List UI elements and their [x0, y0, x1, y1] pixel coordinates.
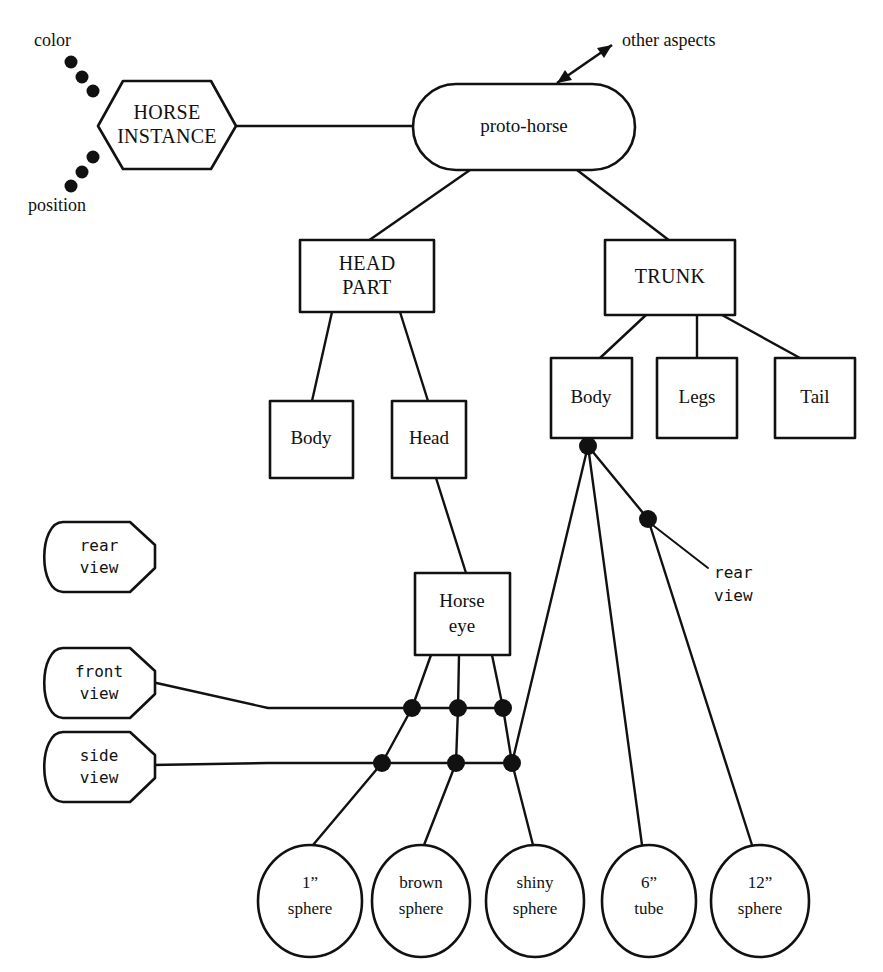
- edge-head-to-horse-eye: [436, 478, 466, 573]
- horse-eye-label-line2: eye: [449, 615, 475, 636]
- junction-dot-trunk-body: [579, 437, 597, 455]
- leaf-12in-sphere-label-line1: 12”: [748, 873, 773, 892]
- leaf-shiny-sphere-label-line2: sphere: [513, 899, 557, 918]
- edge-grid-r2c1-to-1in-sphere: [313, 763, 382, 845]
- rear-view-label-line1: rear: [80, 536, 119, 555]
- front-view-node[interactable]: front view: [44, 648, 155, 718]
- edge-head-part-to-body: [312, 312, 332, 401]
- diagram-canvas: HORSE INSTANCE proto-horse HEAD PART TRU…: [0, 0, 883, 972]
- head-head-label: Head: [409, 427, 450, 448]
- position-annotation-label: position: [28, 195, 86, 215]
- leaf-brown-sphere-label-line1: brown: [399, 873, 443, 892]
- leaf-12in-sphere-node[interactable]: 12” sphere: [711, 845, 809, 957]
- head-part-label-line1: HEAD: [339, 252, 396, 274]
- proto-horse-label: proto-horse: [480, 115, 568, 136]
- edge-grid-r1c1-to-r2c1: [382, 708, 412, 763]
- horse-instance-label-line1: HORSE: [133, 101, 200, 123]
- side-view-node[interactable]: side view: [44, 732, 155, 802]
- head-part-node[interactable]: HEAD PART: [300, 240, 434, 312]
- trunk-legs-node[interactable]: Legs: [657, 358, 737, 438]
- leaf-1in-sphere-label-line1: 1”: [302, 873, 318, 892]
- leaf-brown-sphere-node[interactable]: brown sphere: [372, 845, 470, 957]
- edge-grid-r2c2-to-brown-sphere: [424, 763, 456, 845]
- leaf-6in-tube-node[interactable]: 6” tube: [602, 845, 696, 957]
- color-aspect-dotted-link: [65, 56, 100, 98]
- junction-dot-r1c3: [494, 699, 512, 717]
- edge-prototype-to-head-part: [368, 170, 470, 241]
- horse-eye-label-line1: Horse: [439, 590, 484, 611]
- head-head-node[interactable]: Head: [392, 401, 466, 478]
- front-view-label-line1: front: [75, 662, 123, 681]
- rear-view-label-line2: view: [80, 558, 119, 577]
- rear-view-annotation-label-line2: view: [714, 586, 753, 605]
- horse-eye-node[interactable]: Horse eye: [415, 573, 510, 655]
- front-view-label-line2: view: [80, 684, 119, 703]
- rear-view-node[interactable]: rear view: [44, 522, 155, 592]
- trunk-label: TRUNK: [635, 265, 706, 287]
- trunk-tail-label: Tail: [800, 386, 829, 407]
- trunk-body-label: Body: [570, 386, 612, 407]
- leaf-brown-sphere-label-line2: sphere: [399, 899, 443, 918]
- leaf-6in-tube-label-line2: tube: [634, 899, 663, 918]
- junction-dot-r1c2: [449, 699, 467, 717]
- head-part-label-line2: PART: [342, 276, 391, 298]
- proto-horse-node[interactable]: proto-horse: [413, 84, 635, 170]
- leaf-1in-sphere-node[interactable]: 1” sphere: [258, 845, 362, 957]
- edge-trunk-to-tail: [722, 315, 800, 358]
- edge-prototype-to-trunk: [577, 170, 670, 241]
- trunk-tail-node[interactable]: Tail: [775, 358, 855, 438]
- horse-instance-node[interactable]: HORSE INSTANCE: [98, 81, 236, 169]
- rear-view-annotation-label-line1: rear: [714, 563, 753, 582]
- head-body-label: Body: [290, 427, 332, 448]
- side-view-label-line2: view: [80, 768, 119, 787]
- edge-trunk-body-to-6in-tube: [588, 446, 642, 845]
- junction-dot-rear-view: [639, 510, 657, 528]
- edge-head-part-to-head: [400, 312, 428, 401]
- leaf-12in-sphere-label-line2: sphere: [738, 899, 782, 918]
- junction-dot-r2c1: [373, 754, 391, 772]
- edge-rear-view-leader: [650, 523, 708, 568]
- horse-instance-label-line2: INSTANCE: [117, 125, 217, 147]
- other-aspects-double-arrow: [557, 45, 612, 83]
- other-aspects-annotation-label: other aspects: [622, 30, 715, 50]
- side-view-label-line1: side: [80, 746, 119, 765]
- trunk-body-node[interactable]: Body: [551, 358, 632, 438]
- junction-dot-r1c1: [403, 699, 421, 717]
- leaf-shiny-sphere-label-line1: shiny: [517, 873, 554, 892]
- edge-trunk-to-body: [600, 315, 646, 358]
- proto-horse-hierarchy-diagram: HORSE INSTANCE proto-horse HEAD PART TRU…: [0, 0, 883, 972]
- junction-dot-r2c2: [447, 754, 465, 772]
- trunk-legs-label: Legs: [679, 386, 716, 407]
- color-annotation-label: color: [34, 30, 71, 50]
- trunk-node[interactable]: TRUNK: [605, 240, 735, 315]
- junction-dot-r2c3: [503, 754, 521, 772]
- leaf-1in-sphere-label-line2: sphere: [288, 899, 332, 918]
- leaf-6in-tube-label-line1: 6”: [641, 873, 657, 892]
- edge-grid-r2c3-to-shiny-sphere: [512, 763, 533, 845]
- head-body-node[interactable]: Body: [270, 401, 353, 478]
- leaf-shiny-sphere-node[interactable]: shiny sphere: [486, 845, 584, 957]
- edge-trunk-body-to-grid: [512, 446, 588, 763]
- position-aspect-dotted-link: [65, 151, 100, 193]
